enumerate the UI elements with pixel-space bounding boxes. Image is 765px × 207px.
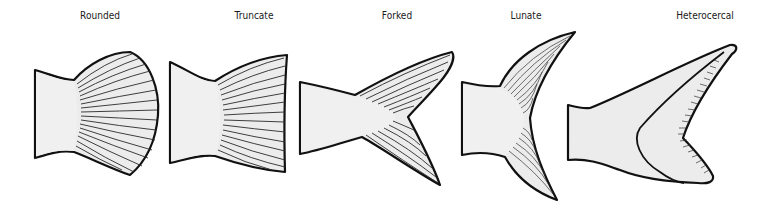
forked-fin-icon — [300, 52, 453, 185]
caudal-fin-diagram: Rounded Truncate Forked Lunate Heterocer… — [0, 0, 765, 207]
rounded-fin-icon — [35, 52, 158, 175]
truncate-fin-icon — [170, 55, 287, 172]
fins-illustration — [0, 0, 765, 207]
lunate-fin-icon — [462, 32, 575, 200]
heterocercal-fin-icon — [568, 45, 736, 183]
